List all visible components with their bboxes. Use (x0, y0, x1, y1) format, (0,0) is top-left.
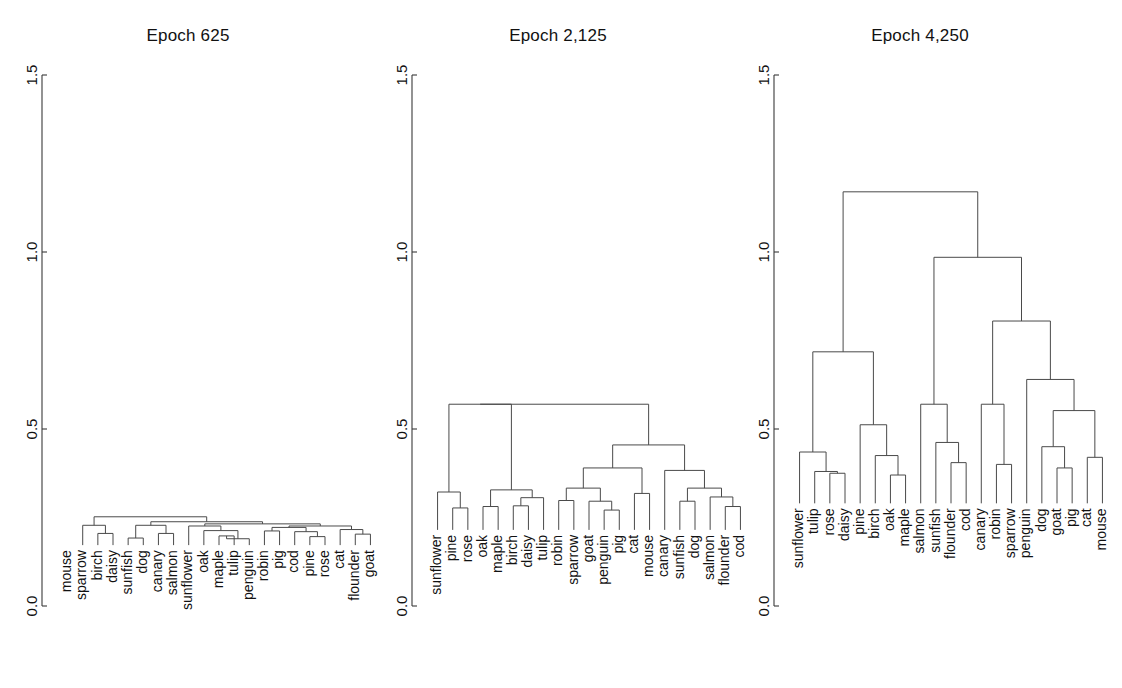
dendrogram-link (936, 442, 959, 503)
leaf-label: pine (851, 508, 867, 535)
leaf-label: sunfish (927, 508, 943, 552)
leaf-label: salmon (911, 508, 927, 553)
dendrogram-link (1027, 379, 1074, 503)
dendrogram-link (815, 471, 838, 503)
dendrogram-tree (800, 192, 1103, 504)
leaf-label: mouse (1093, 508, 1109, 550)
dendrogram-link (1087, 457, 1102, 503)
dendrogram-link (890, 475, 905, 503)
y-axis-tick-label: 1.0 (755, 242, 772, 263)
leaf-label: daisy (836, 508, 852, 541)
leaf-label: flounder (942, 508, 958, 559)
dendrogram-svg: 0.00.51.01.5sunflowertuliprosedaisypineb… (0, 0, 1122, 688)
leaf-label: cat (1078, 508, 1094, 527)
leaf-label: cod (957, 508, 973, 531)
y-axis: 0.00.51.01.5 (755, 65, 779, 617)
leaf-label: canary (972, 508, 988, 550)
dendrogram-link (830, 473, 845, 503)
leaf-label: tulip (805, 508, 821, 534)
dendrogram-link (875, 456, 898, 504)
dendrogram-link (800, 452, 827, 503)
dendrogram-link (1057, 468, 1072, 503)
dendrogram-link (934, 257, 1022, 404)
leaf-label: penguin (1017, 508, 1033, 558)
dendrogram-figure: Epoch 6250.00.51.01.5mousesparrowbirchda… (0, 0, 1122, 688)
leaf-label: rose (821, 508, 837, 535)
dendrogram-link (1042, 447, 1065, 504)
dendrogram-link (981, 404, 1004, 503)
leaf-label: sparrow (1002, 507, 1018, 558)
dendrogram-link (993, 321, 1051, 404)
dendrogram-link (813, 352, 874, 452)
dendrogram-link (860, 425, 887, 504)
dendrogram-link (921, 404, 948, 503)
dendrogram-panel-3: Epoch 4,2500.00.51.01.5sunflowertulipros… (0, 0, 1122, 688)
leaf-label: maple (896, 508, 912, 546)
leaf-label: birch (866, 508, 882, 538)
leaf-label: goat (1048, 508, 1064, 535)
dendrogram-link (951, 463, 966, 504)
y-axis-tick-label: 0.5 (755, 419, 772, 440)
dendrogram-link (1053, 411, 1095, 458)
dendrogram-link (996, 464, 1011, 503)
dendrogram-link (843, 192, 978, 352)
leaf-label: robin (987, 508, 1003, 539)
y-axis-tick-label: 1.5 (755, 65, 772, 86)
leaf-labels: sunflowertuliprosedaisypinebirchoakmaple… (790, 507, 1109, 568)
leaf-label: pig (1063, 508, 1079, 527)
leaf-label: dog (1033, 508, 1049, 531)
leaf-label: sunflower (790, 508, 806, 568)
leaf-label: oak (881, 507, 897, 531)
y-axis-tick-label: 0.0 (755, 596, 772, 617)
